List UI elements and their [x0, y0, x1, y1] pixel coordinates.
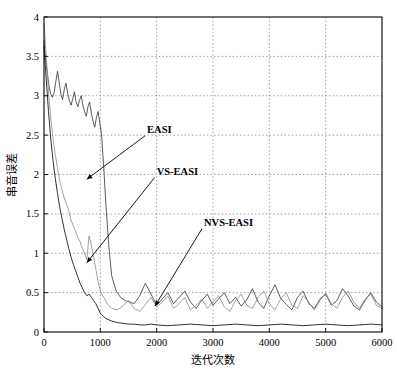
y-tick-label: 4 [34, 12, 40, 23]
x-axis-title: 迭代次数 [191, 353, 235, 367]
chart-canvas: 010002000300040005000600000.511.522.533.… [0, 0, 397, 370]
y-tick-label: 3.5 [26, 51, 39, 62]
annotation-label-easi: EASI [147, 124, 172, 135]
x-tick-label: 0 [41, 337, 46, 348]
annotation-label-vs-easi: VS-EASI [157, 166, 198, 177]
x-tick-label: 1000 [90, 337, 111, 348]
x-tick-label: 2000 [146, 337, 167, 348]
x-tick-label: 3000 [203, 337, 224, 348]
y-tick-label: 1 [34, 248, 39, 259]
x-tick-label: 6000 [372, 337, 393, 348]
x-tick-label: 5000 [315, 337, 336, 348]
annotation-label-nvs-easi: NVS-EASI [204, 217, 253, 228]
y-tick-label: 2.5 [26, 130, 39, 141]
y-tick-label: 3 [34, 90, 39, 101]
y-tick-label: 1.5 [26, 208, 39, 219]
y-tick-label: 0 [34, 327, 39, 338]
y-tick-label: 0.5 [26, 287, 39, 298]
y-tick-label: 2 [34, 169, 39, 180]
y-axis-title: 串音误差 [5, 153, 19, 197]
chart-figure: 010002000300040005000600000.511.522.533.… [0, 0, 397, 370]
x-tick-label: 4000 [259, 337, 280, 348]
